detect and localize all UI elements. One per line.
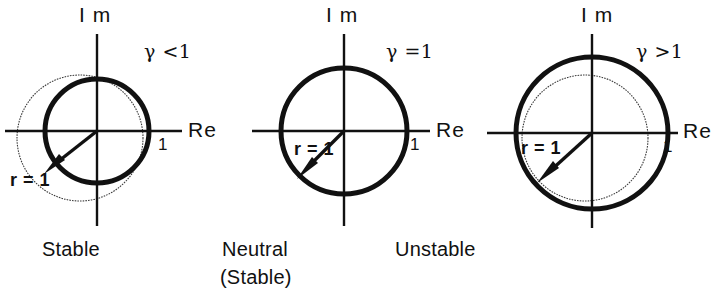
gamma-label: γ <1 [144, 42, 191, 61]
gamma-label: γ >1 [636, 42, 683, 61]
panel-stable-graphic [0, 0, 240, 296]
panel-caption: Unstable [395, 239, 476, 259]
panel-stable: I m Re γ <1 1 r = 1 Stable [0, 0, 240, 296]
panel-caption: Stable [42, 239, 100, 259]
imaginary-axis-label: I m [79, 4, 111, 25]
panel-caption-secondary: (Stable) [220, 267, 292, 287]
panel-unstable: I m Re γ >1 1 r = 1 Unstable [480, 0, 717, 296]
stability-diagram-figure: I m Re γ <1 1 r = 1 Stable I m Re γ =1 1… [0, 0, 717, 296]
real-axis-label: Re [188, 119, 217, 140]
unit-tick-label: 1 [410, 136, 419, 153]
unit-tick-label: 1 [158, 136, 167, 153]
radius-label: r = 1 [521, 139, 561, 157]
real-axis-label: Re [683, 120, 712, 141]
imaginary-axis-label: I m [581, 4, 613, 25]
real-axis-label: Re [436, 119, 465, 140]
panel-caption: Neutral [222, 239, 288, 259]
imaginary-axis-label: I m [326, 4, 358, 25]
gamma-label: γ =1 [386, 42, 433, 61]
unit-tick-label: 1 [663, 138, 672, 155]
radius-label: r = 1 [10, 171, 50, 189]
radius-label: r = 1 [294, 140, 334, 158]
